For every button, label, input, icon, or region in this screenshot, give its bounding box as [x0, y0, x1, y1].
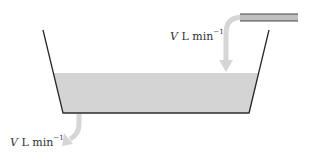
inlet-pipe: [240, 14, 298, 21]
inflow-arrow-icon: [219, 18, 240, 73]
inflow-unit: L min: [181, 30, 213, 43]
tank-diagram: [0, 0, 312, 158]
outflow-arrow-icon: [62, 114, 79, 146]
inflow-rate-label: V L min−1: [170, 30, 224, 42]
outflow-variable: V: [10, 136, 18, 149]
outflow-exponent: −1: [53, 134, 63, 142]
inflow-variable: V: [170, 30, 178, 43]
inflow-exponent: −1: [213, 28, 223, 36]
water-fill: [53, 73, 259, 113]
outflow-rate-label: V L min−1: [10, 136, 64, 148]
outflow-unit: L min: [21, 136, 53, 149]
